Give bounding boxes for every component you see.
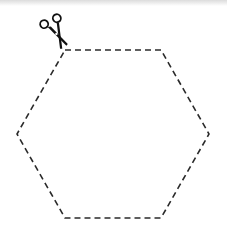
cut-out-template bbox=[0, 0, 227, 233]
dashed-hexagon bbox=[17, 50, 209, 218]
scissors-icon bbox=[39, 13, 73, 53]
hexagon-diagram bbox=[0, 0, 227, 233]
